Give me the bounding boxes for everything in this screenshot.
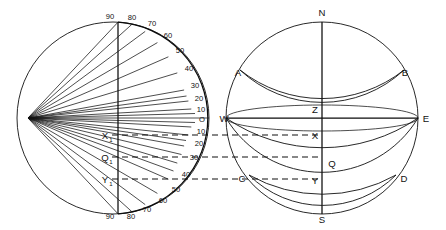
label-west: W <box>219 113 229 124</box>
scale-label-zero: O <box>199 115 205 124</box>
point-label-q1: Q <box>101 152 108 163</box>
point-label-y1: Y <box>102 174 109 185</box>
scale-label-50-dn: 50 <box>172 185 180 194</box>
scale-label-60-up: 60 <box>164 31 172 40</box>
label-point-q: Q <box>328 158 335 169</box>
scale-label-10-up: 10 <box>197 105 205 114</box>
point-label-x1: X <box>102 130 109 141</box>
scale-label-60-dn: 60 <box>159 196 167 205</box>
scale-label-40-up: 40 <box>185 64 193 73</box>
scale-label-70-up: 70 <box>148 19 156 28</box>
astronomy-diagram: 90 80 70 60 50 40 30 20 10 O 10 20 30 40… <box>0 0 446 230</box>
label-point-d: D <box>401 173 408 184</box>
scale-label-20-dn: 20 <box>195 139 203 148</box>
scale-label-30-up: 30 <box>191 81 199 90</box>
label-point-c: C <box>239 173 246 184</box>
label-point-x: X <box>312 130 319 141</box>
label-north: N <box>319 7 326 18</box>
label-point-y: Y <box>312 175 319 186</box>
scale-label-80-up: 80 <box>128 13 136 22</box>
label-zenith: Z <box>312 104 318 115</box>
scale-label-80-dn: 80 <box>127 212 135 221</box>
scale-label-90-up: 90 <box>106 12 114 21</box>
label-point-b: B <box>402 67 408 78</box>
scale-label-70-dn: 70 <box>143 205 151 214</box>
label-point-a: A <box>235 67 242 78</box>
scale-label-90-dn: 90 <box>106 212 114 221</box>
scale-label-50-up: 50 <box>176 46 184 55</box>
label-south: S <box>319 214 325 225</box>
scale-label-40-dn: 40 <box>182 170 190 179</box>
label-east: E <box>423 113 429 124</box>
scale-label-20-up: 20 <box>195 94 203 103</box>
